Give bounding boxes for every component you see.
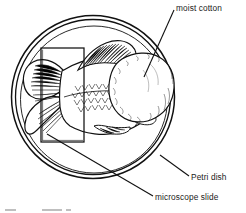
moist-cotton-ball — [109, 53, 174, 123]
label-petri-dish: Petri dish — [191, 172, 227, 182]
caption-clipped-mark — [42, 209, 62, 211]
caption-clipped-mark — [66, 209, 71, 211]
label-moist-cotton: moist cotton — [176, 3, 222, 13]
caption-clipped-mark — [5, 209, 16, 211]
figure-container: moist cotton Petri dish microscope slide — [0, 0, 246, 213]
leader-line-petri-dish — [160, 155, 189, 176]
fish-caudal-fin — [23, 60, 64, 134]
label-microscope-slide: microscope slide — [155, 192, 218, 202]
